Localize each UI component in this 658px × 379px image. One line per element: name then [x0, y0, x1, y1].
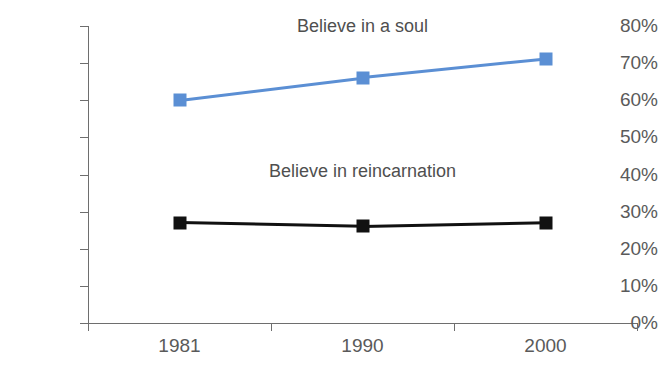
- y-tick: [80, 26, 88, 27]
- x-tick-label: 1990: [341, 336, 383, 355]
- series-label: Believe in a soul: [297, 17, 428, 35]
- series-line-segment: [179, 76, 362, 101]
- x-axis-line: [88, 323, 637, 324]
- y-tick: [80, 137, 88, 138]
- y-tick-label: 80%: [586, 16, 658, 35]
- y-tick-label: 20%: [586, 239, 658, 258]
- y-tick: [80, 63, 88, 64]
- series-label: Believe in reincarnation: [269, 162, 456, 180]
- y-tick-label: 0%: [586, 313, 658, 332]
- data-point-marker: [539, 216, 552, 229]
- x-tick: [271, 323, 272, 331]
- y-tick-label: 70%: [586, 53, 658, 72]
- y-tick: [80, 249, 88, 250]
- y-tick: [80, 100, 88, 101]
- x-tick: [88, 323, 89, 331]
- y-axis-line: [88, 26, 89, 324]
- x-tick-label: 1981: [158, 336, 200, 355]
- y-tick-label: 60%: [586, 90, 658, 109]
- series-line-segment: [179, 221, 362, 228]
- x-tick: [637, 323, 638, 331]
- data-point-marker: [356, 71, 369, 84]
- data-point-marker: [356, 220, 369, 233]
- data-point-marker: [173, 216, 186, 229]
- chart-container: 0%10%20%30%40%50%60%70%80% 198119902000 …: [0, 0, 658, 379]
- y-tick: [80, 175, 88, 176]
- y-tick: [80, 286, 88, 287]
- series-line-segment: [362, 58, 545, 80]
- y-tick-label: 50%: [586, 127, 658, 146]
- x-tick: [454, 323, 455, 331]
- y-tick: [80, 323, 88, 324]
- y-tick-label: 30%: [586, 202, 658, 221]
- x-tick-label: 2000: [524, 336, 566, 355]
- y-tick-label: 40%: [586, 165, 658, 184]
- series-line-segment: [362, 221, 545, 228]
- data-point-marker: [539, 53, 552, 66]
- y-tick-label: 10%: [586, 276, 658, 295]
- y-tick: [80, 212, 88, 213]
- data-point-marker: [173, 94, 186, 107]
